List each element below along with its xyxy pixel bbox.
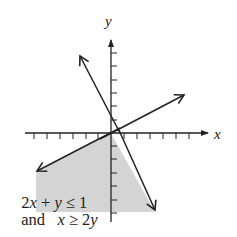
line-2x-plus-y-equals-1 [80, 56, 120, 133]
y-axis-label: y [103, 13, 112, 29]
inequality-2: and x ≥ 2y [13, 195, 98, 228]
x-axis-label: x [213, 126, 221, 142]
